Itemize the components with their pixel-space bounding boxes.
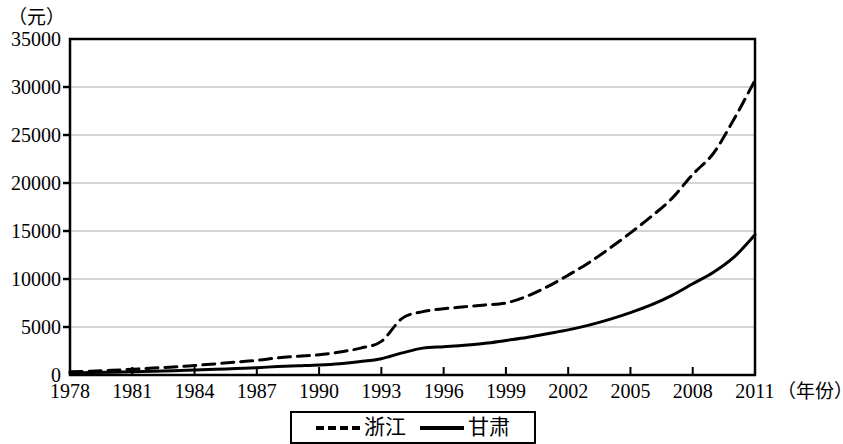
line-chart: （元） 05000100001500020000250003000035000 …	[0, 0, 843, 444]
chart-legend: 浙江 甘肃	[290, 411, 536, 444]
gridlines	[70, 87, 755, 327]
legend-item-gansu: 甘肃	[420, 417, 510, 438]
y-axis-tick-label: 20000	[11, 173, 61, 193]
y-axis-tick-label: 10000	[11, 269, 61, 289]
y-axis-tick-label: 5000	[21, 317, 61, 337]
plot-frame	[70, 39, 755, 375]
data-series	[70, 80, 755, 373]
solid-line-swatch-icon	[420, 426, 464, 430]
legend-label-zhejiang: 浙江	[364, 417, 406, 438]
plot-area	[0, 0, 843, 444]
y-axis-tick-label: 30000	[11, 77, 61, 97]
y-axis-tick-label: 35000	[11, 29, 61, 49]
x-axis-unit-label: （年份）	[777, 382, 843, 401]
series-line-zhejiang	[70, 80, 755, 372]
y-axis-tick-label: 15000	[11, 221, 61, 241]
legend-item-zhejiang: 浙江	[316, 417, 406, 438]
legend-label-gansu: 甘肃	[468, 417, 510, 438]
series-line-gansu	[70, 235, 755, 373]
dashed-line-swatch-icon	[316, 426, 360, 430]
y-axis-tick-label: 25000	[11, 125, 61, 145]
